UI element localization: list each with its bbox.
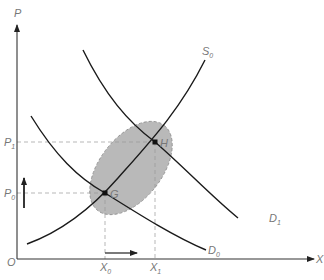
shaded-region-ellipse xyxy=(73,106,188,229)
p0-label: P0 xyxy=(4,187,15,201)
demand-new-label: D1 xyxy=(269,212,281,226)
point-h-label: H xyxy=(160,137,168,149)
x0-label: X0 xyxy=(99,261,111,275)
equilibrium-point-g xyxy=(103,191,108,196)
x-axis-label: X xyxy=(315,253,324,265)
x1-label: X1 xyxy=(149,261,161,275)
supply-label: S0 xyxy=(202,45,213,59)
origin-label: O xyxy=(7,256,16,268)
demand-old-label: D0 xyxy=(208,244,220,258)
equilibrium-point-h xyxy=(153,140,158,145)
supply-demand-diagram: P X O S0 D1 D0 G H P1 P0 X0 X1 xyxy=(0,0,324,280)
p1-label: P1 xyxy=(4,136,15,150)
point-g-label: G xyxy=(110,188,119,200)
y-axis-label: P xyxy=(14,7,22,19)
